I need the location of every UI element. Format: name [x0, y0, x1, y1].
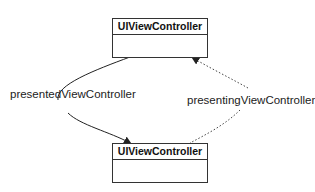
presented-edge-label: presentedViewController: [10, 88, 136, 100]
node-title: UIViewController: [113, 19, 207, 35]
presented-arrow-lower: [68, 113, 130, 143]
presenting-edge-label: presentingViewController: [187, 94, 315, 106]
presenting-arrow: [193, 58, 248, 88]
node-title: UIViewController: [113, 144, 207, 160]
presenting-arrow-lower: [190, 110, 240, 143]
top-view-controller-node: UIViewController: [112, 18, 208, 58]
bottom-view-controller-node: UIViewController: [112, 143, 208, 183]
